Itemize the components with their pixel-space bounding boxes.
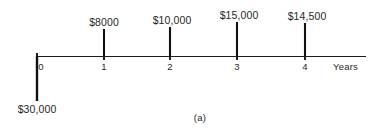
cash-inflow-arrows [104,22,305,56]
axis-tick-label-4: 4 [302,62,307,72]
axis-tick-label-1: 1 [101,62,106,72]
cash-flow-amount-year4: $14,500 [288,11,327,22]
cash-flow-diagram: $8000 $10,000 $15,000 $14,500 0 1 2 3 4 … [0,0,392,131]
cash-flow-amount-year1: $8000 [89,17,119,28]
axis-tick-label-2: 2 [167,62,172,72]
axis-tick-label-0: 0 [38,62,43,72]
axis-tick-label-3: 3 [234,62,239,72]
cash-flow-amount-year3: $15,000 [220,10,259,21]
cash-flow-amount-year0: $30,000 [18,104,57,115]
cash-flow-amount-year2: $10,000 [153,15,192,26]
axis-title-years: Years [333,62,358,72]
figure-caption: (a) [194,113,207,123]
